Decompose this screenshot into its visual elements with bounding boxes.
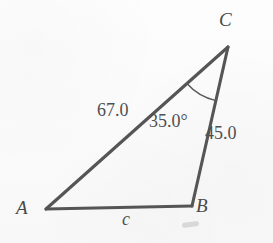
vertex-label-c: C <box>219 10 232 29</box>
angle-arc-c-icon <box>187 84 216 101</box>
triangle-edge-ac <box>46 47 228 209</box>
side-length-label-bc: 45.0 <box>205 124 237 142</box>
vertex-label-b: B <box>196 196 208 215</box>
triangle-figure: A B C 67.0 45.0 c 35.0° <box>0 0 273 243</box>
angle-measure-label-c: 35.0° <box>149 112 188 130</box>
vertex-label-a: A <box>16 198 28 217</box>
side-length-label-ab: c <box>122 210 130 228</box>
triangle-drawing <box>0 0 273 243</box>
side-length-label-ac: 67.0 <box>97 101 129 119</box>
triangle-edge-ab <box>46 206 192 209</box>
